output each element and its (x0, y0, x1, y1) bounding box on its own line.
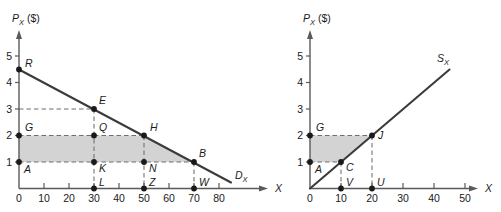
point-label-A-supply: A (314, 163, 322, 175)
point-K (91, 159, 97, 165)
point-label-G-supply: G (316, 121, 324, 133)
demand-ytick-label-2: 2 (6, 129, 12, 141)
supply-x-axis-arrow (469, 186, 478, 192)
point-E (91, 106, 97, 112)
supply-y-axis-arrow (307, 30, 313, 39)
point-label-C: C (346, 161, 354, 173)
demand-curve (19, 70, 231, 183)
point-B (191, 159, 197, 165)
point-label-A: A (23, 163, 31, 175)
point-U (369, 186, 375, 192)
demand-x-axis-title: X (274, 182, 283, 194)
supply-y-axis-title: PX ($) (303, 12, 331, 27)
demand-xtick-label-20: 20 (63, 192, 75, 204)
demand-y-axis-title-main: P (12, 12, 19, 24)
economics-figure: 1 2 3 4 5 0 10 20 30 40 50 60 70 (0, 0, 501, 212)
point-label-G: G (25, 121, 33, 133)
demand-xtick-label-70: 70 (188, 192, 200, 204)
demand-curve-label: DX (235, 169, 249, 184)
point-label-Z: Z (148, 176, 156, 188)
supply-xtick-label-10: 10 (335, 192, 347, 204)
demand-xtick-label-40: 40 (113, 192, 125, 204)
point-G-supply (307, 133, 313, 139)
demand-x-axis-arrow (259, 186, 268, 192)
supply-x-ticks (341, 183, 465, 189)
point-label-W: W (199, 176, 210, 188)
supply-y-axis-title-unit: ($) (315, 12, 331, 24)
point-label-U: U (377, 176, 385, 188)
supply-xtick-label-0: 0 (307, 192, 313, 204)
point-label-K: K (99, 162, 107, 174)
demand-y-axis-title-unit: ($) (24, 12, 40, 24)
point-label-B: B (199, 147, 206, 159)
supply-xtick-label-20: 20 (366, 192, 378, 204)
supply-curve-label-sub: X (443, 58, 450, 67)
point-label-J: J (377, 129, 384, 141)
point-W (191, 186, 197, 192)
supply-xtick-label-40: 40 (428, 192, 440, 204)
point-H (141, 133, 147, 139)
point-L (91, 186, 97, 192)
supply-curve-label: SX (437, 52, 450, 67)
supply-ytick-label-4: 4 (297, 76, 303, 88)
supply-ytick-label-1: 1 (297, 156, 303, 168)
demand-ytick-label-4: 4 (6, 76, 12, 88)
demand-xtick-label-60: 60 (163, 192, 175, 204)
point-label-E: E (99, 94, 107, 106)
point-J (369, 133, 375, 139)
supply-ytick-label-2: 2 (297, 129, 303, 141)
demand-xtick-label-80: 80 (213, 192, 225, 204)
supply-xtick-label-50: 50 (459, 192, 471, 204)
charts-svg: 1 2 3 4 5 0 10 20 30 40 50 60 70 (0, 0, 501, 212)
point-label-H: H (150, 121, 158, 133)
demand-y-axis-title: PX ($) (12, 12, 40, 27)
demand-y-axis-arrow (16, 30, 22, 39)
point-label-V: V (346, 176, 354, 188)
point-V (338, 186, 344, 192)
point-R (16, 67, 22, 73)
supply-y-axis-title-main: P (303, 12, 310, 24)
supply-x-axis-title: X (484, 182, 493, 194)
demand-xtick-label-50: 50 (138, 192, 150, 204)
demand-curve-label-sub: X (242, 175, 249, 184)
point-label-Q: Q (99, 121, 107, 133)
supply-chart: 1 2 3 4 5 0 10 20 30 40 50 PX ($) X (297, 12, 493, 204)
supply-xtick-label-30: 30 (397, 192, 409, 204)
supply-curve-label-main: S (437, 52, 444, 64)
point-Z (141, 186, 147, 192)
supply-ytick-label-5: 5 (297, 50, 303, 62)
point-A-supply (307, 159, 313, 165)
point-Q (91, 133, 97, 139)
supply-shaded-region (310, 136, 372, 163)
point-C (338, 159, 344, 165)
demand-xtick-label-0: 0 (16, 192, 22, 204)
demand-xtick-label-30: 30 (88, 192, 100, 204)
demand-ytick-label-3: 3 (6, 103, 12, 115)
demand-ytick-label-5: 5 (6, 50, 12, 62)
point-G (16, 133, 22, 139)
point-label-N: N (149, 162, 157, 174)
demand-ytick-label-1: 1 (6, 156, 12, 168)
demand-chart: 1 2 3 4 5 0 10 20 30 40 50 60 70 (6, 12, 283, 204)
point-N (141, 159, 147, 165)
supply-ytick-label-3: 3 (297, 103, 303, 115)
point-label-L: L (99, 176, 105, 188)
point-A (16, 159, 22, 165)
demand-xtick-label-10: 10 (38, 192, 50, 204)
point-label-R: R (25, 57, 33, 69)
